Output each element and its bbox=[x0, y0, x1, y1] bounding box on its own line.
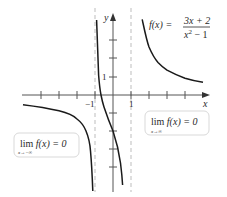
limit-right-subscript: x→∞ bbox=[150, 129, 162, 134]
rational-function-graph: x −1 1 y 1 f(x) = 3x + 2 x2 − 1 li bbox=[0, 0, 227, 197]
x-tick-label-neg1: −1 bbox=[85, 99, 95, 109]
curve-middle-branch bbox=[97, 20, 123, 185]
limit-box-neg-infinity: lim f(x) = 0 x→−∞ bbox=[14, 133, 79, 157]
function-lhs: f(x) = bbox=[149, 19, 172, 31]
y-axis-label: y bbox=[103, 12, 109, 23]
function-numerator: 3x + 2 bbox=[183, 15, 210, 26]
x-axis: x −1 1 bbox=[22, 91, 210, 109]
function-label: f(x) = 3x + 2 x2 − 1 bbox=[149, 15, 210, 40]
limit-right-text: lim f(x) = 0 bbox=[151, 116, 197, 128]
limit-left-text: lim f(x) = 0 bbox=[20, 138, 66, 150]
y-tick-label-1: 1 bbox=[102, 72, 107, 82]
limit-box-pos-infinity: lim f(x) = 0 x→∞ bbox=[145, 111, 209, 135]
function-denominator: x2 − 1 bbox=[183, 28, 208, 40]
limit-left-subscript: x→−∞ bbox=[17, 150, 33, 155]
y-axis: y 1 bbox=[102, 12, 117, 192]
x-tick-label-1: 1 bbox=[129, 99, 134, 109]
y-axis-arrow-icon bbox=[110, 13, 116, 21]
x-axis-label: x bbox=[202, 98, 208, 109]
